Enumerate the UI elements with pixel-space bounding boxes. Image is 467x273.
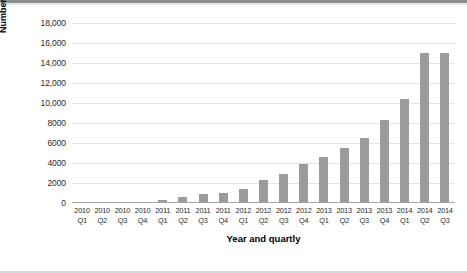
x-tick-year: 2012 (253, 206, 273, 216)
x-axis-tick-label: 2013Q4 (374, 206, 394, 226)
bar[interactable] (259, 180, 268, 203)
bar[interactable] (279, 174, 288, 204)
x-tick-quarter: Q4 (294, 216, 314, 226)
x-axis-tick-label: 2014Q3 (435, 206, 455, 226)
x-tick-quarter: Q4 (132, 216, 152, 226)
x-axis-tick-label: 2010Q2 (92, 206, 112, 226)
bar[interactable] (440, 53, 449, 203)
bar-slot (274, 23, 294, 203)
x-tick-year: 2013 (314, 206, 334, 216)
x-tick-year: 2010 (72, 206, 92, 216)
x-axis-tick-label: 2010Q1 (72, 206, 92, 226)
bar-slot (233, 23, 253, 203)
bar[interactable] (239, 189, 248, 203)
bar-slot (354, 23, 374, 203)
x-tick-quarter: Q3 (112, 216, 132, 226)
x-tick-quarter: Q4 (213, 216, 233, 226)
x-tick-quarter: Q2 (334, 216, 354, 226)
bar[interactable] (360, 138, 369, 204)
bar[interactable] (319, 157, 328, 203)
y-axis-tick-label: 12,000 (41, 78, 66, 88)
y-axis-tick-label: 10,000 (41, 98, 66, 108)
x-axis-tick-label: 2010Q3 (112, 206, 132, 226)
y-axis-tick-label: 16,000 (41, 38, 66, 48)
x-axis-tick-labels: 2010Q12010Q22010Q32010Q42011Q12011Q22011… (72, 206, 455, 226)
bar-slot (253, 23, 273, 203)
x-tick-quarter: Q3 (354, 216, 374, 226)
x-tick-year: 2013 (374, 206, 394, 216)
x-axis-line (72, 202, 455, 203)
bar-slot (314, 23, 334, 203)
bar-slot (213, 23, 233, 203)
x-axis-tick-label: 2011Q2 (173, 206, 193, 226)
x-axis-tick-label: 2014Q1 (395, 206, 415, 226)
x-tick-year: 2013 (354, 206, 374, 216)
bar-slot (112, 23, 132, 203)
x-tick-year: 2011 (173, 206, 193, 216)
x-tick-quarter: Q4 (374, 216, 394, 226)
bar[interactable] (340, 148, 349, 203)
bar[interactable] (400, 99, 409, 203)
x-tick-year: 2010 (132, 206, 152, 216)
x-tick-year: 2011 (193, 206, 213, 216)
x-tick-quarter: Q1 (395, 216, 415, 226)
bar-slot (415, 23, 435, 203)
bar-slot (435, 23, 455, 203)
y-axis-tick-label: 18,000 (41, 18, 66, 28)
x-axis-tick-label: 2012Q3 (274, 206, 294, 226)
y-axis-tick-label: 8000 (47, 118, 66, 128)
x-axis-title: Year and quartly (72, 233, 455, 244)
plot-area (72, 23, 455, 203)
x-tick-year: 2013 (334, 206, 354, 216)
bar-slot (374, 23, 394, 203)
x-axis-tick-label: 2011Q1 (153, 206, 173, 226)
bar[interactable] (380, 120, 389, 203)
x-axis-tick-label: 2011Q4 (213, 206, 233, 226)
x-axis-tick-label: 2010Q4 (132, 206, 152, 226)
bar-chart: Number of vehicles licenced 020004000600… (0, 5, 467, 273)
y-axis-tick-label: 6000 (47, 138, 66, 148)
bar-slot (92, 23, 112, 203)
x-tick-quarter: Q2 (253, 216, 273, 226)
bar-slot (153, 23, 173, 203)
y-axis-tick-label: 4000 (47, 158, 66, 168)
bar-slot (334, 23, 354, 203)
bar-slot (193, 23, 213, 203)
bar-series (72, 23, 455, 203)
x-tick-year: 2010 (112, 206, 132, 216)
x-axis-tick-label: 2011Q3 (193, 206, 213, 226)
y-axis-tick-labels: 0200040006000800010,00012,00014,00016,00… (0, 5, 70, 221)
x-tick-year: 2012 (294, 206, 314, 216)
y-axis-tick-label: 0 (61, 198, 66, 208)
x-tick-year: 2014 (395, 206, 415, 216)
x-tick-quarter: Q1 (233, 216, 253, 226)
bar-slot (72, 23, 92, 203)
x-tick-year: 2010 (92, 206, 112, 216)
x-tick-quarter: Q2 (415, 216, 435, 226)
x-axis-tick-label: 2012Q2 (253, 206, 273, 226)
x-tick-quarter: Q3 (435, 216, 455, 226)
x-tick-quarter: Q1 (72, 216, 92, 226)
bar-slot (132, 23, 152, 203)
x-tick-year: 2011 (213, 206, 233, 216)
x-axis-tick-label: 2013Q2 (334, 206, 354, 226)
bar-slot (294, 23, 314, 203)
x-axis-tick-label: 2013Q3 (354, 206, 374, 226)
x-tick-year: 2011 (153, 206, 173, 216)
bar[interactable] (299, 164, 308, 203)
x-tick-year: 2012 (274, 206, 294, 216)
x-axis-tick-label: 2012Q4 (294, 206, 314, 226)
x-axis-tick-label: 2014Q2 (415, 206, 435, 226)
x-tick-year: 2012 (233, 206, 253, 216)
x-tick-quarter: Q2 (92, 216, 112, 226)
x-axis-tick-label: 2012Q1 (233, 206, 253, 226)
x-tick-quarter: Q1 (314, 216, 334, 226)
x-axis-tick-label: 2013Q1 (314, 206, 334, 226)
y-axis-tick-label: 14,000 (41, 58, 66, 68)
x-tick-year: 2014 (435, 206, 455, 216)
x-tick-quarter: Q3 (193, 216, 213, 226)
x-tick-quarter: Q1 (153, 216, 173, 226)
bar[interactable] (420, 53, 429, 203)
y-axis-tick-label: 2000 (47, 178, 66, 188)
x-tick-quarter: Q2 (173, 216, 193, 226)
